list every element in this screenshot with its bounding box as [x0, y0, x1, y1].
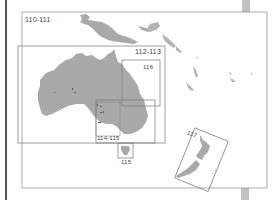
land-new-zealand	[176, 135, 210, 178]
land-islands	[146, 22, 253, 91]
land-tasmania	[121, 146, 130, 155]
label-115: 115	[121, 159, 131, 165]
label-112-113: 112-113	[134, 48, 162, 55]
label-116: 116	[143, 64, 153, 70]
binding-mark-bottom	[242, 188, 248, 200]
land-new-guinea	[80, 14, 138, 44]
locator-map	[0, 0, 277, 200]
binding-mark-top	[243, 0, 249, 12]
land-australia	[38, 49, 148, 134]
label-110-111: 110-111	[25, 16, 51, 23]
label-114-115: 114-115	[97, 135, 120, 141]
